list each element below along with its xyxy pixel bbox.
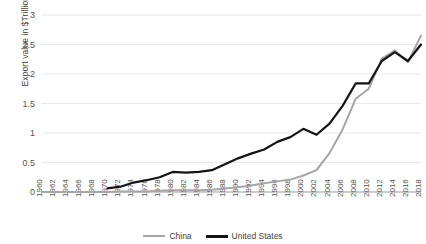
x-axis-tick-label: 1982 bbox=[179, 179, 188, 197]
line-chart: Export value in $Trillions 00.511.522.53… bbox=[0, 0, 426, 244]
x-axis-tick-label: 1964 bbox=[61, 179, 70, 197]
x-axis-tick-label: 1960 bbox=[35, 179, 44, 197]
x-axis-tick-label: 2018 bbox=[414, 179, 423, 197]
x-axis-tick-label: 2002 bbox=[309, 179, 318, 197]
x-axis-tick-label: 1980 bbox=[166, 179, 175, 197]
legend-label: China bbox=[169, 231, 191, 241]
x-axis-tick-label: 2012 bbox=[375, 179, 384, 197]
y-axis-tick-label: 1 bbox=[30, 128, 35, 138]
y-axis-tick-label: 1.5 bbox=[22, 99, 35, 109]
y-axis-tick-label: 0.5 bbox=[22, 158, 35, 168]
x-axis-tick-label: 1998 bbox=[283, 179, 292, 197]
x-axis-tick-label: 1986 bbox=[205, 179, 214, 197]
legend-label: United States bbox=[232, 231, 283, 241]
x-axis-tick-label: 2004 bbox=[323, 179, 332, 197]
x-axis-tick-label: 1962 bbox=[48, 179, 57, 197]
legend-swatch bbox=[206, 235, 228, 238]
x-axis-tick-label: 2006 bbox=[336, 179, 345, 197]
gridlines bbox=[42, 15, 421, 192]
series-line-united-states bbox=[107, 45, 421, 189]
x-axis-tick-label: 2016 bbox=[401, 179, 410, 197]
y-axis-tick-label: 3 bbox=[30, 10, 35, 20]
x-axis-tick-label: 1994 bbox=[257, 179, 266, 197]
plot-area: 00.511.522.53 19601962196419661968197019… bbox=[0, 0, 426, 244]
x-axis-tick-label: 2014 bbox=[388, 179, 397, 197]
series-line-china bbox=[42, 36, 421, 192]
x-axis-tick-label: 1984 bbox=[192, 179, 201, 197]
data-series-group bbox=[42, 36, 421, 192]
chart-legend: ChinaUnited States bbox=[0, 231, 426, 241]
x-axis-tick-label: 2010 bbox=[362, 179, 371, 197]
legend-item-united-states[interactable]: United States bbox=[206, 231, 283, 241]
x-axis-tick-label: 1968 bbox=[87, 179, 96, 197]
legend-item-china[interactable]: China bbox=[143, 231, 191, 241]
x-axis-tick-label: 1966 bbox=[74, 179, 83, 197]
x-axis-tick-label: 2008 bbox=[349, 179, 358, 197]
legend-swatch bbox=[143, 235, 165, 237]
x-axis-tick-label: 1992 bbox=[244, 179, 253, 197]
y-axis-tick-label: 2 bbox=[30, 69, 35, 79]
x-axis-tick-label: 1978 bbox=[153, 179, 162, 197]
y-axis-tick-label: 2.5 bbox=[22, 40, 35, 50]
x-axis-tick-label: 2000 bbox=[296, 179, 305, 197]
y-axis-tick-labels: 00.511.522.53 bbox=[22, 10, 35, 197]
